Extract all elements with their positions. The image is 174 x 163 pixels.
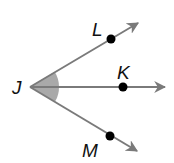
label-m: M (82, 140, 98, 161)
label-j: J (11, 77, 22, 98)
point-l (107, 35, 116, 44)
angle-diagram: J L K M (0, 0, 174, 163)
point-k (119, 83, 128, 92)
point-m (106, 132, 115, 141)
label-k: K (117, 62, 131, 83)
label-l: L (92, 19, 103, 40)
